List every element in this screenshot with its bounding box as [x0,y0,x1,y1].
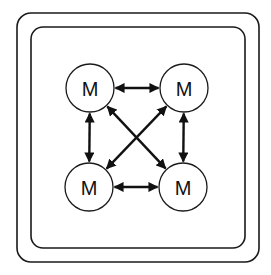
node-label: M [81,177,98,199]
node-tl: M [66,64,114,112]
node-br: M [159,163,207,211]
node-bl: M [65,163,113,211]
node-label: M [175,177,192,199]
node-tr: M [160,64,208,112]
mesh-diagram: MMMM [0,0,271,275]
node-label: M [176,78,193,100]
node-label: M [82,78,99,100]
